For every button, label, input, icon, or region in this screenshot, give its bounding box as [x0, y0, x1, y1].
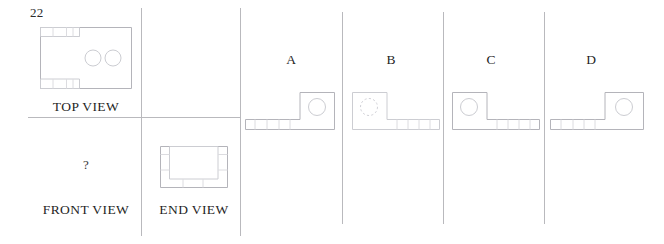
top-view-figure — [40, 27, 132, 89]
option-letter-b: B — [371, 52, 411, 67]
divider-option-a-b — [342, 12, 343, 224]
option-b-figure[interactable] — [352, 92, 440, 130]
drawing-puzzle-page: 22 TOP VIEW ? FRONT VIEW — [0, 0, 664, 244]
option-a-figure[interactable] — [245, 92, 335, 130]
divider-option-c-d — [544, 12, 545, 224]
option-letter-a: A — [271, 52, 311, 67]
end-view-figure — [160, 146, 228, 188]
question-number: 22 — [30, 6, 44, 20]
option-letter-c: C — [471, 52, 511, 67]
divider-option-b-c — [443, 12, 444, 224]
front-view-placeholder: ? — [71, 158, 101, 172]
divider-vertical-given-answers — [240, 8, 241, 236]
option-letter-d: D — [571, 52, 611, 67]
top-view-label: TOP VIEW — [34, 99, 138, 114]
front-view-label: FRONT VIEW — [30, 202, 142, 217]
divider-horizontal-top-front — [28, 117, 240, 118]
option-c-figure[interactable] — [452, 92, 540, 130]
end-view-label: END VIEW — [148, 202, 240, 217]
option-d-figure[interactable] — [550, 92, 644, 130]
